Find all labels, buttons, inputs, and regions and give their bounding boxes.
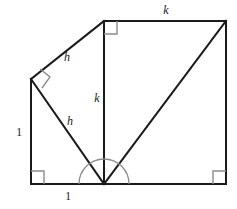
diagonal-segment bbox=[104, 21, 226, 184]
lower-h-segment bbox=[31, 79, 104, 184]
label-bottom-one: 1 bbox=[65, 190, 71, 202]
label-lower-h: h bbox=[67, 114, 73, 128]
top-left-right-angle-icon bbox=[104, 21, 117, 34]
label-top-k: k bbox=[163, 3, 169, 17]
bottom-right-right-angle-icon bbox=[213, 171, 226, 184]
bottom-left-right-angle-icon bbox=[31, 171, 44, 184]
geometry-figure: k k h h 1 1 bbox=[0, 0, 237, 209]
geometry-canvas: k k h h 1 1 bbox=[0, 0, 237, 209]
label-upper-h: h bbox=[64, 50, 70, 64]
label-vertical-k: k bbox=[94, 91, 100, 105]
label-left-one: 1 bbox=[16, 126, 22, 138]
